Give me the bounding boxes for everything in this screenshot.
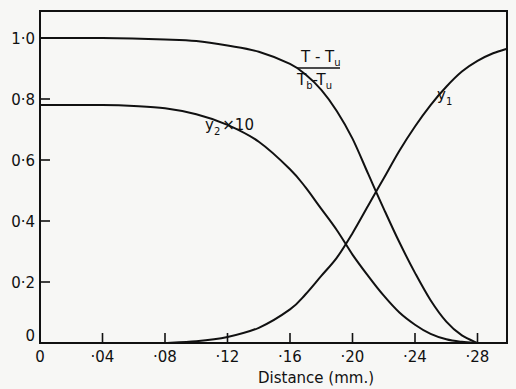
y2-curve (40, 105, 478, 343)
x-tick-label: ·08 (153, 348, 177, 366)
x-tick-label: ·04 (91, 348, 115, 366)
theta-label-numerator: T - Tu (300, 48, 341, 68)
x-tick-label: ·12 (216, 348, 240, 366)
chart: 00·20·40·60·81·0 0·04·08·12·16·20·24·28 … (0, 0, 516, 389)
theta-label: T - Tu Tb-Tu (296, 48, 341, 91)
series-curves (40, 38, 507, 343)
y-tick-label: 0 (25, 327, 35, 345)
theta-label-denominator: Tb-Tu (296, 71, 332, 91)
x-tick-label: ·20 (341, 348, 365, 366)
y-axis-ticks: 00·20·40·60·81·0 (11, 30, 50, 345)
x-tick-label: ·16 (278, 348, 302, 366)
y-tick-label: 0·6 (11, 152, 35, 170)
x-tick-label: 0 (35, 348, 45, 366)
y2-label: y2×10 (205, 116, 254, 137)
plot-frame (40, 11, 507, 343)
x-axis-label: Distance (mm.) (258, 369, 374, 387)
y1-label: y1 (437, 86, 452, 107)
y1-curve (165, 49, 507, 343)
y-tick-label: 0·4 (11, 213, 35, 231)
x-tick-label: ·28 (466, 348, 490, 366)
x-axis-ticks: 0·04·08·12·16·20·24·28 (35, 333, 489, 366)
y-tick-label: 0·2 (11, 274, 35, 292)
theta-curve (40, 38, 478, 343)
y-tick-label: 1·0 (11, 30, 35, 48)
x-tick-label: ·24 (403, 348, 427, 366)
y-tick-label: 0·8 (11, 91, 35, 109)
